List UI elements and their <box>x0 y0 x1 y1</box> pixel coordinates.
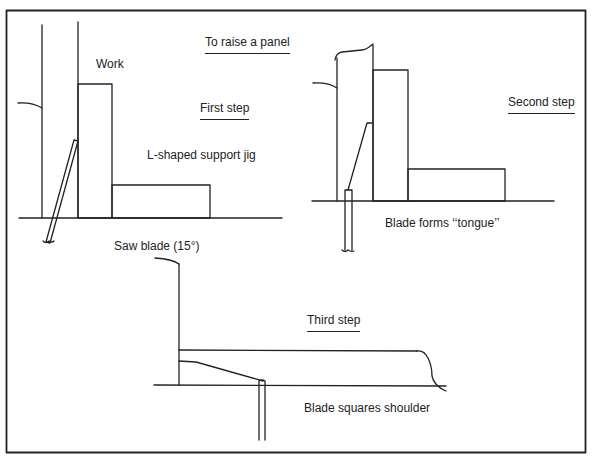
blade-break <box>43 241 54 243</box>
work-label: Work <box>96 57 124 71</box>
second-step-label: Second step <box>508 95 575 114</box>
jig-base <box>408 169 505 201</box>
panel-raising-diagram <box>0 0 594 460</box>
outer-frame <box>7 11 586 453</box>
shoulder-label: Blade squares shoulder <box>304 401 430 415</box>
work-top-curve <box>155 258 179 264</box>
work-top-break <box>335 44 373 60</box>
tongue-cut-line <box>348 123 372 190</box>
tongue-label: Blade forms ‘‘tongue’’ <box>385 216 499 230</box>
saw-blade-label: Saw blade (15°) <box>114 239 200 253</box>
table-surface <box>154 385 446 386</box>
panel-break-curve <box>417 351 446 391</box>
diagram-title: To raise a panel <box>205 35 290 54</box>
first-step-drawing <box>18 22 282 243</box>
saw-blade-vertical <box>259 380 265 440</box>
bevel-line <box>179 361 263 381</box>
panel-top-line <box>179 350 417 351</box>
jig-upright <box>78 84 112 218</box>
first-step-label: First step <box>200 101 249 120</box>
saw-blade-vertical <box>345 190 352 250</box>
third-step-label: Third step <box>307 313 360 332</box>
saw-blade-tilted <box>46 140 78 243</box>
jig-label: L-shaped support jig <box>147 148 256 162</box>
jig-base <box>112 185 210 218</box>
jig-upright <box>373 70 408 201</box>
work-break-curve <box>18 103 42 108</box>
work-side-break <box>313 83 337 88</box>
